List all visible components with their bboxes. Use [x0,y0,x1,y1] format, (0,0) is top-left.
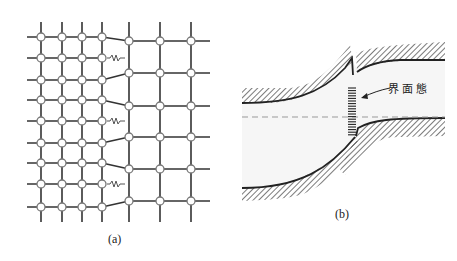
atom-node [125,37,133,45]
atom-node [58,33,66,41]
atom-node [58,76,66,84]
atom-node [78,159,86,167]
dangling-bond [107,118,125,124]
atom-node [156,102,164,110]
atom-node [37,54,45,62]
atom-node [58,54,66,62]
atom-node [98,203,106,211]
atom-node [37,96,45,104]
atom-node [98,54,106,62]
atom-node [125,102,133,110]
caption-b: (b) [335,207,349,222]
atom-node [37,203,45,211]
atom-node [58,117,66,125]
atom-node [37,180,45,188]
atom-node [187,37,195,45]
atom-node [58,180,66,188]
atom-node [98,159,106,167]
atom-node [78,139,86,147]
band-diagram [242,42,445,201]
atom-node [156,165,164,173]
atom-node [78,54,86,62]
atom-node [187,165,195,173]
atom-node [78,33,86,41]
atom-node [125,165,133,173]
atom-node [78,180,86,188]
interface-lattice [27,22,210,222]
atom-node [58,159,66,167]
atom-node [98,96,106,104]
atom-node [98,33,106,41]
atom-node [98,76,106,84]
dangling-bond [107,55,125,61]
atom-node [98,139,106,147]
atom-node [37,159,45,167]
atom-node [37,33,45,41]
atom-node [156,133,164,141]
atom-node [58,96,66,104]
diagram-canvas [0,0,457,261]
atom-node [187,102,195,110]
atom-node [58,203,66,211]
atom-node [156,37,164,45]
atom-node [156,69,164,77]
atom-node [78,76,86,84]
interface-states-label: 界面態 [388,80,430,96]
atom-node [58,139,66,147]
atom-node [187,197,195,205]
caption-a: (a) [108,232,121,247]
atom-node [156,197,164,205]
atom-node [125,69,133,77]
atom-node [187,69,195,77]
atom-node [37,139,45,147]
atom-node [37,117,45,125]
atom-node [98,180,106,188]
atom-node [125,133,133,141]
atom-node [187,133,195,141]
atom-node [125,197,133,205]
dangling-bond [107,181,125,187]
atom-node [37,76,45,84]
atom-node [78,203,86,211]
atom-node [98,117,106,125]
atom-node [78,117,86,125]
atom-node [78,96,86,104]
